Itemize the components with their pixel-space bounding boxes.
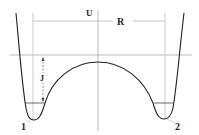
barrier-arrow-down-icon <box>42 98 45 102</box>
well-1-label: 1 <box>21 121 26 132</box>
well-1-leader <box>27 120 30 123</box>
well-2-leader <box>167 119 175 123</box>
barrier-label: J <box>40 74 44 83</box>
barrier-arrow-up-icon <box>42 57 45 61</box>
potential-label: U <box>86 8 93 18</box>
distance-label: R <box>117 16 125 27</box>
well-2-label: 2 <box>175 121 180 132</box>
potential-curve <box>16 13 184 120</box>
double-well-diagram: U R J 1 2 <box>0 0 199 135</box>
